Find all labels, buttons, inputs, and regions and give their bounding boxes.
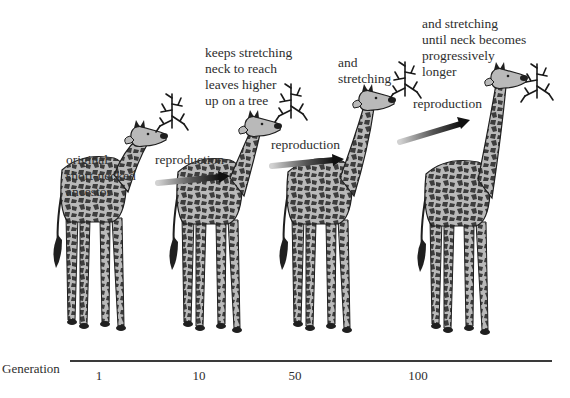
tree-branch-icon	[389, 62, 421, 100]
axis-tick-100: 100	[408, 368, 428, 384]
caption-line: keeps stretching	[205, 45, 292, 61]
reproduction-label-3: reproduction	[413, 96, 482, 112]
caption-generation-10: keeps stretching neck to reach leaves hi…	[205, 45, 292, 109]
caption-line: original	[66, 152, 136, 168]
axis-tick-50: 50	[289, 368, 302, 384]
caption-line: progressively	[422, 48, 526, 64]
reproduction-label-1: reproduction	[155, 152, 224, 168]
caption-line: short-necked	[66, 168, 136, 184]
caption-line: and	[338, 55, 391, 71]
generation-axis-line	[70, 360, 552, 362]
caption-line: until neck becomes	[422, 32, 526, 48]
caption-generation-100: and stretching until neck becomes progre…	[422, 16, 526, 80]
caption-line: up on a tree	[205, 93, 292, 109]
reproduction-arrow-2	[272, 154, 344, 166]
axis-tick-10: 10	[193, 368, 206, 384]
axis-label: Generation	[2, 361, 60, 377]
giraffe-generation-10	[169, 110, 282, 333]
caption-line: ancestor	[66, 184, 136, 200]
caption-generation-50: and stretching	[338, 55, 391, 87]
reproduction-arrow-3	[400, 117, 470, 142]
reproduction-label-2: reproduction	[271, 137, 340, 153]
caption-line: neck to reach	[205, 61, 292, 77]
axis-tick-1: 1	[96, 368, 103, 384]
caption-generation-1: original short-necked ancestor	[66, 152, 136, 200]
caption-line: and stretching	[422, 16, 526, 32]
caption-line: leaves higher	[205, 77, 292, 93]
caption-line: stretching	[338, 71, 391, 87]
tree-branch-icon	[156, 94, 188, 132]
giraffe-generation-50	[279, 84, 396, 333]
caption-line: longer	[422, 64, 526, 80]
lamarck-giraffe-diagram: original short-necked ancestor keeps str…	[0, 0, 570, 398]
